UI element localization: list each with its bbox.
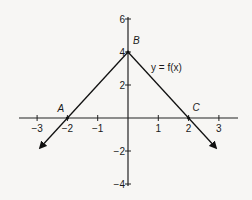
y-tick-label: −2: [114, 146, 126, 157]
point-label-a: A: [56, 103, 64, 114]
x-tick-label: 3: [216, 123, 222, 134]
x-tick-label: 1: [156, 123, 162, 134]
point-b: [126, 50, 129, 53]
y-tick-label: 2: [119, 80, 125, 91]
y-tick-label: 6: [119, 14, 125, 25]
y-tick-label: 4: [119, 47, 125, 58]
point-label-b: B: [133, 35, 140, 46]
coordinate-plane: −3−2−1123642−2−4ABCy = f(x): [0, 0, 252, 200]
x-tick-label: −3: [31, 123, 43, 134]
graph-figure: −3−2−1123642−2−4ABCy = f(x): [0, 0, 252, 200]
labels: −3−2−1123642−2−4ABCy = f(x): [31, 14, 222, 190]
function-label: y = f(x): [151, 62, 182, 73]
x-tick-label: 2: [186, 123, 192, 134]
x-tick-label: −1: [92, 123, 104, 134]
axes: [19, 17, 238, 186]
point-label-c: C: [193, 102, 201, 113]
y-tick-label: −4: [114, 179, 126, 190]
left-ray: [40, 52, 128, 148]
x-tick-label: −2: [62, 123, 74, 134]
point-a: [66, 116, 69, 119]
point-c: [187, 116, 190, 119]
